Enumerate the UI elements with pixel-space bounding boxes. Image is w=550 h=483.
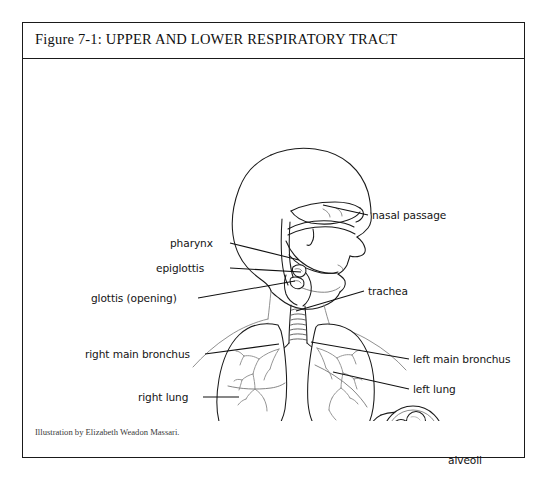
label-alveoli: alveoli: [448, 454, 482, 466]
label-right-main-bronchus: right main bronchus: [85, 348, 190, 360]
label-left-main-bronchus: left main bronchus: [413, 353, 510, 365]
label-glottis: glottis (opening): [91, 292, 177, 304]
leader-nasal-passage: [323, 205, 368, 215]
leader-glottis: [198, 281, 295, 298]
alveoli-inset: [368, 406, 443, 421]
label-nasal-passage: nasal passage: [372, 209, 446, 221]
label-epiglottis: epiglottis: [156, 262, 204, 274]
label-right-lung: right lung: [138, 391, 188, 403]
leader-epiglottis: [230, 268, 301, 272]
label-left-lung: left lung: [413, 383, 456, 395]
respiratory-tract-illustration: [23, 59, 524, 421]
figure-caption: Illustration by Elizabeth Weadon Massari…: [35, 427, 180, 437]
right-lung: [217, 324, 287, 421]
figure-title-bar: Figure 7-1: UPPER AND LOWER RESPIRATORY …: [23, 23, 524, 59]
label-pharynx: pharynx: [170, 237, 213, 249]
illustration-area: nasal passage pharynx epiglottis glottis…: [23, 59, 524, 421]
nasal-passage-anatomy: [288, 202, 363, 245]
figure-box: Figure 7-1: UPPER AND LOWER RESPIRATORY …: [22, 22, 525, 458]
left-lung: [308, 324, 375, 421]
label-trachea: trachea: [368, 285, 408, 297]
leader-trachea: [296, 291, 364, 311]
figure-title: Figure 7-1: UPPER AND LOWER RESPIRATORY …: [35, 31, 397, 48]
